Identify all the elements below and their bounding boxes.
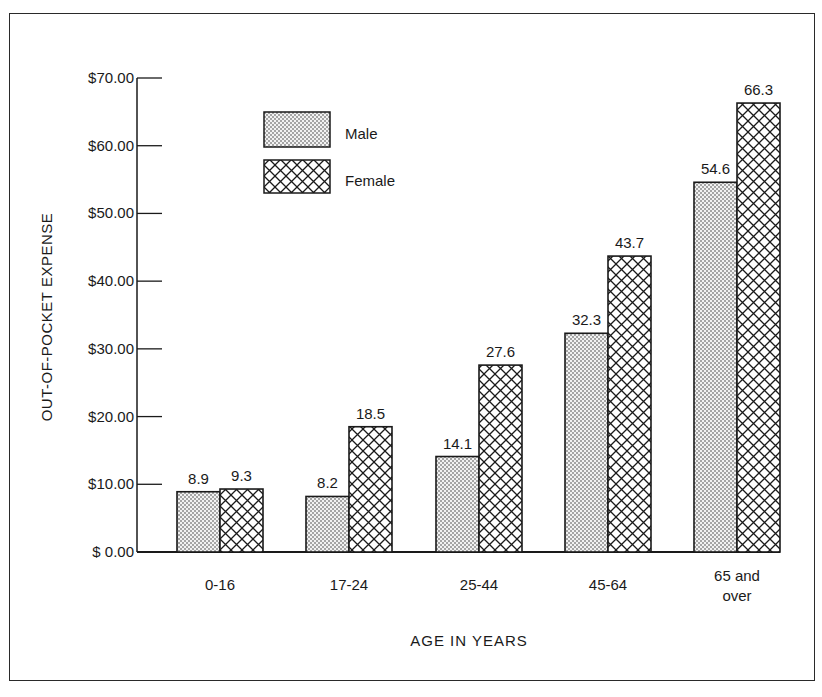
data-label: 8.2	[317, 474, 338, 491]
y-tick-label: $ 0.00	[92, 543, 134, 560]
bar-male-0	[177, 492, 220, 552]
x-tick-label: over	[722, 587, 751, 604]
y-tick-label: $20.00	[88, 408, 134, 425]
bar-male-4	[694, 182, 737, 552]
x-tick-label: 0-16	[205, 576, 235, 593]
data-label: 54.6	[701, 160, 730, 177]
data-label: 66.3	[744, 81, 773, 98]
y-tick-label: $50.00	[88, 204, 134, 221]
data-label: 9.3	[231, 467, 252, 484]
y-axis-title: OUT-OF-POCKET EXPENSE	[38, 213, 55, 422]
data-label: 14.1	[443, 435, 472, 452]
x-tick-label: 65 and	[714, 567, 760, 584]
data-label: 32.3	[572, 311, 601, 328]
bars: 8.99.38.218.514.127.632.343.754.666.3	[177, 81, 780, 552]
data-label: 27.6	[486, 343, 515, 360]
legend-swatch-male	[264, 112, 330, 147]
bar-female-3	[608, 256, 651, 552]
bar-female-2	[479, 365, 522, 552]
bar-female-0	[220, 489, 263, 552]
bar-male-3	[565, 333, 608, 552]
y-tick-label: $70.00	[88, 69, 134, 86]
y-tick-label: $10.00	[88, 475, 134, 492]
y-tick-label: $30.00	[88, 340, 134, 357]
legend-label-female: Female	[345, 172, 395, 189]
legend: Male Female	[264, 112, 395, 193]
data-label: 8.9	[188, 470, 209, 487]
y-tick-label: $40.00	[88, 272, 134, 289]
bar-female-4	[737, 103, 780, 552]
x-tick-label: 45-64	[589, 576, 627, 593]
data-label: 18.5	[356, 405, 385, 422]
bar-male-2	[436, 457, 479, 552]
x-tick-label: 17-24	[330, 576, 368, 593]
bar-female-1	[349, 427, 392, 552]
bar-male-1	[306, 496, 349, 552]
x-axis-title: AGE IN YEARS	[410, 632, 528, 649]
x-tick-label: 25-44	[460, 576, 498, 593]
legend-label-male: Male	[345, 125, 378, 142]
x-axis-labels: 0-1617-2425-4445-6465 andover	[205, 567, 760, 604]
bar-chart: $ 0.00$10.00$20.00$30.00$40.00$50.00$60.…	[0, 0, 822, 697]
y-tick-label: $60.00	[88, 137, 134, 154]
legend-swatch-female	[264, 160, 330, 193]
data-label: 43.7	[615, 234, 644, 251]
